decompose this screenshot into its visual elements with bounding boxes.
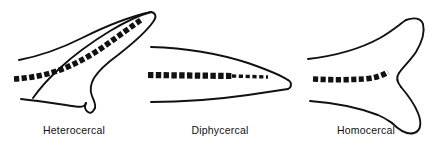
caption-heterocercal: Heterocercal [14,124,134,136]
caption-homocercal: Homocercal [306,124,426,136]
fish-tail-types-figure: Heterocercal Diphycercal Homocercal [0,0,444,148]
caption-diphycercal: Diphycercal [160,124,280,136]
diphycercal-vertebral-column [148,75,232,76]
